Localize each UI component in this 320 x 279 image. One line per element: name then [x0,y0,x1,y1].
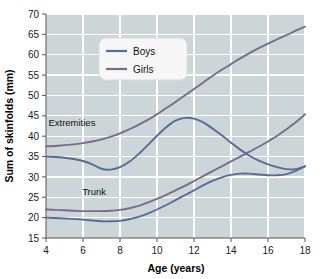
y-axis-title: Sum of skinfolds (mm) [3,69,15,182]
chart-container: 152025303540455055606570 4681012141618 E… [0,0,320,279]
x-tick-label: 18 [299,245,311,256]
y-tick-label: 30 [28,172,40,183]
x-axis-title: Age (years) [147,262,204,274]
y-tick-label: 55 [28,70,40,81]
legend-label-boys: Boys [133,46,155,57]
y-tick-label: 65 [28,29,40,40]
legend: Boys Girls [99,38,187,80]
legend-label-girls: Girls [133,64,154,75]
x-tick-label: 14 [225,245,237,256]
x-axis-ticks: 4681012141618 [43,238,311,256]
x-tick-label: 16 [262,245,274,256]
y-axis-ticks: 152025303540455055606570 [28,9,46,244]
y-tick-label: 25 [28,192,40,203]
x-tick-label: 8 [117,245,123,256]
x-tick-label: 10 [151,245,163,256]
x-tick-label: 4 [43,245,49,256]
y-tick-label: 20 [28,212,40,223]
y-tick-label: 45 [28,110,40,121]
y-tick-label: 40 [28,131,40,142]
y-tick-label: 15 [28,233,40,244]
x-tick-label: 12 [188,245,200,256]
annotation-extremities: Extremities [48,117,95,128]
annotation-trunk: Trunk [82,186,106,197]
skinfolds-line-chart: 152025303540455055606570 4681012141618 E… [0,0,320,279]
y-tick-label: 35 [28,151,40,162]
y-tick-label: 60 [28,49,40,60]
y-tick-label: 50 [28,90,40,101]
x-tick-label: 6 [80,245,86,256]
y-tick-label: 70 [28,9,40,20]
